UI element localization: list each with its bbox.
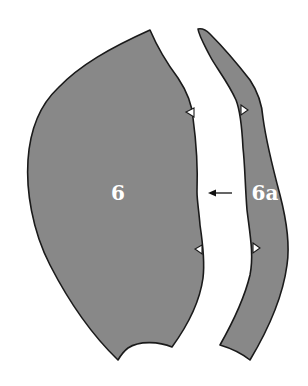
arrow-left-icon: [208, 190, 232, 197]
piece-6-label: 6: [111, 181, 125, 205]
pattern-piece-6: 6: [28, 30, 204, 360]
pattern-diagram: 6 6a: [0, 0, 308, 386]
piece-6a-label: 6a: [252, 181, 279, 205]
